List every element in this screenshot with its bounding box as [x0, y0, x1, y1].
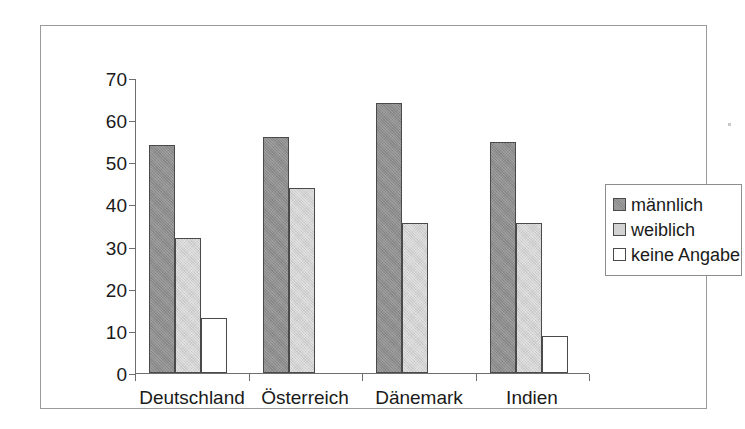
x-axis-label: Österreich [261, 388, 349, 407]
x-tick-mark [249, 374, 250, 381]
legend-item[interactable]: weiblich [613, 217, 735, 242]
y-tick-mark [129, 205, 135, 206]
bar [542, 336, 568, 373]
y-tick-mark [129, 121, 135, 122]
y-tick-mark [129, 163, 135, 164]
legend-label: keine Angabe [631, 246, 740, 264]
bar [289, 188, 315, 373]
bar [201, 318, 227, 373]
x-axis-label: Indien [506, 388, 558, 407]
x-axis-label: Dänemark [375, 388, 463, 407]
bar [376, 103, 402, 373]
legend-item[interactable]: keine Angabe [613, 242, 735, 267]
bar [175, 238, 201, 373]
y-tick-mark [129, 290, 135, 291]
y-tick-label: 0 [116, 365, 127, 384]
y-tick-label: 10 [106, 322, 127, 341]
bar [490, 142, 516, 373]
chart-figure: 010203040506070 DeutschlandÖsterreichDän… [0, 0, 745, 429]
y-tick-label: 50 [106, 154, 127, 173]
legend-item[interactable]: männlich [613, 192, 735, 217]
legend-swatch-icon [613, 223, 626, 236]
x-tick-mark [362, 374, 363, 381]
y-tick-label: 30 [106, 238, 127, 257]
chart-legend: männlichweiblichkeine Angabe [605, 184, 742, 276]
y-axis-line [135, 79, 136, 374]
bar [516, 223, 542, 373]
plot-area: 010203040506070 DeutschlandÖsterreichDän… [135, 79, 589, 374]
bar [149, 145, 175, 373]
legend-swatch-icon [613, 198, 626, 211]
y-tick-label: 40 [106, 196, 127, 215]
bar [402, 223, 428, 373]
y-tick-mark [129, 332, 135, 333]
legend-swatch-icon [613, 248, 626, 261]
scan-speck [728, 123, 731, 126]
x-tick-mark [476, 374, 477, 381]
y-tick-label: 70 [106, 70, 127, 89]
y-tick-mark [129, 248, 135, 249]
legend-label: weiblich [631, 221, 695, 239]
x-tick-mark [135, 374, 136, 381]
y-tick-label: 20 [106, 280, 127, 299]
bar [263, 137, 289, 373]
y-tick-mark [129, 79, 135, 80]
chart-frame: 010203040506070 DeutschlandÖsterreichDän… [40, 25, 707, 409]
legend-label: männlich [631, 196, 703, 214]
x-axis-label: Deutschland [139, 388, 245, 407]
x-tick-mark [589, 374, 590, 381]
y-tick-label: 60 [106, 112, 127, 131]
